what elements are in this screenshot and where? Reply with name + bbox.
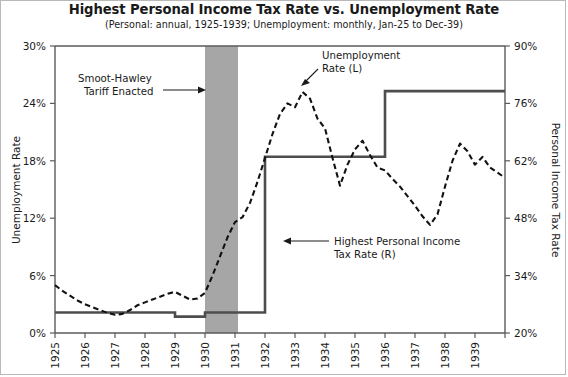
left-axis-title: Unemployment Rate — [10, 136, 22, 244]
x-tick-label: 1927 — [109, 342, 121, 369]
x-tick-label: 1937 — [409, 342, 421, 369]
chart-plot-area: 0%6%12%18%24%30% 20%34%48%62%76%90% 1925… — [0, 0, 568, 377]
right-tick-label: 34% — [514, 270, 537, 282]
x-tick-label: 1926 — [79, 342, 91, 369]
x-tick-label: 1929 — [169, 342, 181, 369]
tax-rate-annotation-line1: Highest Personal Income — [334, 236, 460, 247]
x-tick-label: 1934 — [319, 342, 331, 369]
x-tick-label: 1928 — [139, 342, 151, 369]
x-tick-label: 1933 — [289, 342, 301, 369]
left-tick-label: 6% — [29, 270, 46, 282]
tax-rate-step-line — [55, 91, 505, 317]
tax-rate-annotation-line2: Tax Rate (R) — [333, 249, 396, 260]
unemployment-leader-line — [305, 69, 318, 82]
smoot-hawley-annotation-line2: Tariff Enacted — [83, 86, 154, 97]
unemployment-arrow-icon — [301, 79, 310, 86]
left-tick-label: 0% — [29, 327, 46, 339]
tax-rate-arrow-icon — [283, 238, 291, 245]
smoot-hawley-annotation: Smoot-Hawley Tariff Enacted — [78, 73, 206, 97]
left-axis-ticks: 0%6%12%18%24%30% — [23, 40, 55, 339]
unemployment-dashed-line — [55, 92, 503, 315]
unemployment-annotation-line2: Rate (L) — [322, 63, 362, 74]
right-tick-label: 48% — [514, 212, 537, 224]
x-tick-label: 1925 — [49, 342, 61, 369]
x-tick-label: 1930 — [199, 342, 211, 369]
x-tick-label: 1939 — [469, 342, 481, 369]
unemployment-series-annotation: Unemployment Rate (L) — [301, 50, 400, 86]
left-tick-label: 12% — [23, 212, 46, 224]
left-tick-label: 30% — [23, 40, 46, 52]
x-axis-ticks: 1925192619271928192919301931193219331934… — [49, 333, 505, 369]
x-tick-label: 1936 — [379, 342, 391, 369]
chart-page: Highest Personal Income Tax Rate vs. Une… — [0, 0, 568, 377]
x-tick-label: 1938 — [439, 342, 451, 369]
left-tick-label: 24% — [23, 97, 46, 109]
right-tick-label: 20% — [514, 327, 537, 339]
right-axis-ticks: 20%34%48%62%76%90% — [505, 40, 537, 339]
x-tick-label: 1935 — [349, 342, 361, 369]
right-axis-title: Personal Income Tax Rate — [550, 123, 562, 258]
shaded-region-group — [205, 46, 238, 333]
x-tick-label: 1931 — [229, 342, 241, 369]
smoot-hawley-annotation-line1: Smoot-Hawley — [78, 73, 152, 84]
right-tick-label: 90% — [514, 40, 537, 52]
tax-rate-series-annotation: Highest Personal Income Tax Rate (R) — [283, 236, 460, 260]
unemployment-annotation-line1: Unemployment — [322, 50, 400, 61]
smoot-hawley-arrow-icon — [198, 87, 206, 94]
smoot-hawley-band — [205, 46, 238, 333]
x-tick-label: 1932 — [259, 342, 271, 369]
right-tick-label: 62% — [514, 155, 537, 167]
left-tick-label: 18% — [23, 155, 46, 167]
right-tick-label: 76% — [514, 97, 537, 109]
